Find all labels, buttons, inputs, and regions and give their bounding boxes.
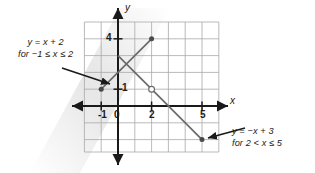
graph-figure: y x -1 0 2 5 4 1 y = x + 2 for −1 ≤ x ≤ … (0, 0, 315, 173)
x-tick-label-5: 5 (200, 109, 206, 120)
x-axis-label: x (230, 95, 235, 106)
endpoint-closed-5-neg2 (200, 137, 205, 142)
annotation-right-condition: for 2 < x ≤ 5 (232, 138, 282, 150)
annotation-right-equation: y = −x + 3 (232, 126, 282, 138)
annotation-right: y = −x + 3 for 2 < x ≤ 5 (232, 126, 282, 149)
x-tick-label-neg1: -1 (98, 109, 107, 120)
annotation-left-equation: y = x + 2 (18, 37, 73, 49)
endpoint-open-2-1 (149, 86, 155, 92)
endpoint-closed-neg1-1 (99, 87, 104, 92)
y-tick-label-1: 1 (122, 82, 128, 93)
annotation-left-condition: for −1 ≤ x ≤ 2 (18, 49, 73, 61)
endpoint-closed-2-4 (149, 36, 154, 41)
annotation-left: y = x + 2 for −1 ≤ x ≤ 2 (18, 37, 73, 60)
x-tick-label-2: 2 (149, 109, 155, 120)
y-tick-label-4: 4 (106, 32, 112, 43)
segment-y-equals-neg-x-plus-3 (118, 56, 205, 143)
y-axis-label: y (125, 2, 130, 13)
x-tick-label-0: 0 (114, 109, 120, 120)
